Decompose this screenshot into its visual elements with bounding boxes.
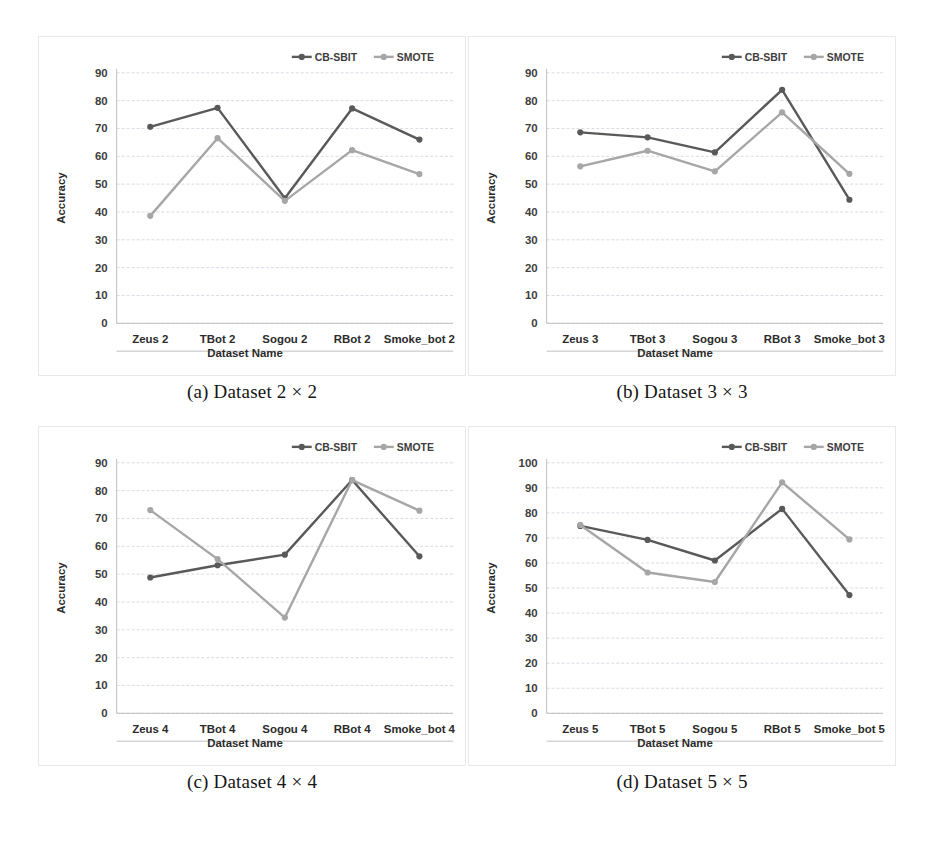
legend: CB-SBITSMOTE <box>722 52 864 63</box>
y-tick-label: 30 <box>95 624 108 636</box>
chart-b-svg: 0102030405060708090AccuracyZeus 3TBot 3S… <box>469 37 895 375</box>
chart-a-svg: 0102030405060708090AccuracyZeus 2TBot 2S… <box>39 37 465 375</box>
series-line-smote <box>150 138 419 216</box>
y-tick-label: 60 <box>95 540 108 552</box>
x-axis-title: Dataset Name <box>207 737 283 749</box>
x-category-label: Sogou 3 <box>692 333 737 345</box>
x-axis-title: Dataset Name <box>637 737 713 749</box>
y-tick-label: 0 <box>101 317 107 329</box>
y-tick-label: 30 <box>525 234 538 246</box>
x-category-label: TBot 2 <box>200 333 236 345</box>
data-point-cb-sbit <box>846 197 852 203</box>
legend-marker-smote <box>381 444 387 450</box>
x-category-label: Zeus 4 <box>132 723 169 735</box>
x-category-label: Zeus 3 <box>562 333 598 345</box>
y-tick-label: 50 <box>95 568 108 580</box>
x-category-label: TBot 5 <box>630 723 666 735</box>
y-tick-label: 30 <box>95 234 108 246</box>
y-tick-label: 10 <box>525 289 538 301</box>
legend-label-smote: SMOTE <box>827 52 864 63</box>
data-point-smote <box>644 569 650 575</box>
caption-a: (a) Dataset 2 × 2 <box>38 381 466 403</box>
data-point-smote <box>282 198 288 204</box>
y-tick-label: 30 <box>525 632 538 644</box>
x-category-label: Smoke_bot 2 <box>384 333 455 345</box>
data-point-cb-sbit <box>214 105 220 111</box>
data-point-cb-sbit <box>712 557 718 563</box>
y-tick-label: 80 <box>95 95 108 107</box>
data-point-smote <box>349 147 355 153</box>
y-tick-label: 70 <box>95 122 108 134</box>
data-point-cb-sbit <box>644 537 650 543</box>
legend-marker-smote <box>381 54 387 60</box>
data-point-smote <box>214 556 220 562</box>
y-tick-label: 40 <box>525 206 538 218</box>
x-category-label: Smoke_bot 4 <box>384 723 456 735</box>
data-point-cb-sbit <box>416 553 422 559</box>
legend: CB-SBITSMOTE <box>292 52 434 63</box>
figure-grid: 0102030405060708090AccuracyZeus 2TBot 2S… <box>0 0 941 842</box>
x-category-label: Sogou 4 <box>262 723 308 735</box>
series-line-smote <box>580 482 849 582</box>
data-point-smote <box>846 536 852 542</box>
series-line-smote <box>580 112 849 174</box>
legend-marker-cb-sbit <box>299 54 305 60</box>
legend-label-cb-sbit: CB-SBIT <box>745 442 788 453</box>
y-tick-label: 70 <box>95 512 108 524</box>
y-tick-label: 40 <box>525 607 538 619</box>
y-tick-label: 20 <box>525 657 538 669</box>
series-line-cb-sbit <box>150 480 419 577</box>
data-point-smote <box>846 171 852 177</box>
data-point-smote <box>712 168 718 174</box>
x-category-label: RBot 2 <box>334 333 371 345</box>
x-category-label: TBot 3 <box>630 333 666 345</box>
y-tick-label: 60 <box>525 150 538 162</box>
data-point-cb-sbit <box>147 124 153 130</box>
chart-c-svg: 0102030405060708090AccuracyZeus 4TBot 4S… <box>39 427 465 765</box>
data-point-smote <box>779 109 785 115</box>
legend-marker-cb-sbit <box>729 444 735 450</box>
caption-d: (d) Dataset 5 × 5 <box>468 771 896 793</box>
x-category-label: Zeus 2 <box>132 333 168 345</box>
y-tick-label: 10 <box>95 679 108 691</box>
y-tick-label: 50 <box>525 582 538 594</box>
data-point-smote <box>282 614 288 620</box>
legend-label-smote: SMOTE <box>397 52 434 63</box>
legend: CB-SBITSMOTE <box>292 442 434 453</box>
y-tick-label: 90 <box>525 482 538 494</box>
data-point-smote <box>147 213 153 219</box>
y-axis-title: Accuracy <box>55 172 67 224</box>
x-category-label: Smoke_bot 3 <box>814 333 885 345</box>
series-line-cb-sbit <box>150 108 419 198</box>
y-tick-label: 100 <box>519 457 538 469</box>
chart-b: 0102030405060708090AccuracyZeus 3TBot 3S… <box>468 36 896 376</box>
data-point-smote <box>416 508 422 514</box>
y-tick-label: 40 <box>95 206 108 218</box>
data-point-smote <box>712 579 718 585</box>
data-point-smote <box>147 507 153 513</box>
y-tick-label: 0 <box>531 317 537 329</box>
data-point-smote <box>644 148 650 154</box>
legend-marker-smote <box>811 54 817 60</box>
y-tick-label: 20 <box>95 652 108 664</box>
data-point-cb-sbit <box>779 87 785 93</box>
panel-d: 0102030405060708090100AccuracyZeus 5TBot… <box>468 426 908 816</box>
series-line-cb-sbit <box>580 90 849 200</box>
data-point-smote <box>416 171 422 177</box>
legend-label-smote: SMOTE <box>397 442 434 453</box>
legend-marker-smote <box>811 444 817 450</box>
y-tick-label: 20 <box>95 262 108 274</box>
x-category-label: TBot 4 <box>200 723 236 735</box>
legend-marker-cb-sbit <box>729 54 735 60</box>
y-tick-label: 70 <box>525 532 538 544</box>
y-tick-label: 90 <box>525 67 538 79</box>
y-tick-label: 20 <box>525 262 538 274</box>
y-tick-label: 90 <box>95 457 108 469</box>
y-tick-label: 10 <box>95 289 108 301</box>
x-category-label: Zeus 5 <box>562 723 599 735</box>
panel-b: 0102030405060708090AccuracyZeus 3TBot 3S… <box>468 36 908 426</box>
y-tick-label: 60 <box>525 557 538 569</box>
legend: CB-SBITSMOTE <box>722 442 864 453</box>
x-axis-title: Dataset Name <box>637 347 713 359</box>
x-category-label: Sogou 5 <box>692 723 738 735</box>
